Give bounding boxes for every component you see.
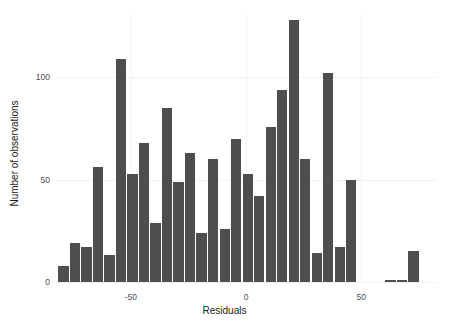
histogram-bar xyxy=(208,159,218,282)
histogram-bar xyxy=(385,280,395,282)
y-tick-label: 0 xyxy=(45,277,50,287)
histogram-bar xyxy=(162,108,172,282)
histogram-bar xyxy=(243,174,253,282)
histogram-bar xyxy=(139,143,149,282)
plot-area xyxy=(56,14,436,282)
y-axis-title: Number of observations xyxy=(9,54,20,254)
histogram-bar xyxy=(185,153,195,282)
histogram-bar xyxy=(70,243,80,282)
histogram-bar xyxy=(277,90,287,282)
histogram-bar xyxy=(220,229,230,282)
x-tick-label: 0 xyxy=(244,292,249,302)
histogram-bar xyxy=(335,247,345,282)
gridline-horizontal xyxy=(56,282,436,283)
histogram-bar xyxy=(173,182,183,282)
histogram-bar xyxy=(196,233,206,282)
histogram-bar xyxy=(254,196,264,282)
bar-series xyxy=(56,14,436,282)
histogram-bar xyxy=(104,255,114,282)
x-axis-title: Residuals xyxy=(0,305,449,316)
histogram-bar xyxy=(300,159,310,282)
histogram-bar xyxy=(58,266,68,282)
y-tick-label: 100 xyxy=(36,72,50,82)
histogram-bar xyxy=(289,20,299,282)
histogram-bar xyxy=(81,247,91,282)
histogram-bar xyxy=(231,139,241,282)
histogram-bar xyxy=(408,251,418,282)
histogram-bar xyxy=(346,180,356,282)
x-axis-tick-labels: -50050 xyxy=(0,292,449,306)
y-tick-label: 50 xyxy=(41,175,50,185)
x-tick-label: 50 xyxy=(356,292,365,302)
histogram-bar xyxy=(312,253,322,282)
y-axis-tick-labels: 050100 xyxy=(26,0,50,335)
histogram-bar xyxy=(116,59,126,282)
histogram-bar xyxy=(323,73,333,282)
histogram-bar xyxy=(150,223,160,282)
x-tick-label: -50 xyxy=(125,292,137,302)
histogram-bar xyxy=(127,174,137,282)
histogram-bar xyxy=(93,167,103,282)
histogram-bar xyxy=(397,280,407,282)
histogram-bar xyxy=(266,127,276,282)
histogram-figure: 050100 -50050 Residuals Number of observ… xyxy=(0,0,449,335)
